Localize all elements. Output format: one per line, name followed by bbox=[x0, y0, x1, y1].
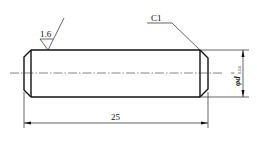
pin-outline bbox=[24, 50, 208, 97]
chamfer-label: C1 bbox=[151, 13, 162, 23]
technical-drawing: 1.6 C1 25 φd 0 0.04 bbox=[0, 0, 257, 141]
diameter-tolerance-upper: 0 bbox=[230, 71, 235, 74]
length-value: 25 bbox=[111, 112, 121, 122]
roughness-value: 1.6 bbox=[40, 29, 52, 39]
chamfer-callout: C1 bbox=[147, 13, 200, 50]
diameter-tolerance-lower: 0.04 bbox=[237, 65, 242, 74]
diameter-symbol: φd bbox=[232, 76, 242, 86]
surface-roughness-symbol: 1.6 bbox=[40, 18, 64, 50]
